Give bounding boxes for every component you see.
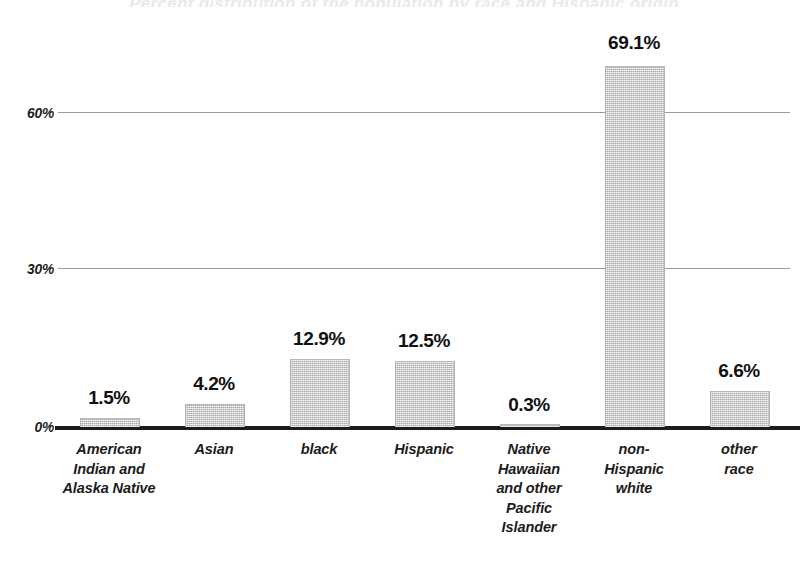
bar-category-line: Hispanic: [577, 460, 691, 480]
bar-category-line: non-: [577, 440, 691, 460]
bar-category-line: Hispanic: [367, 440, 481, 460]
bar-rect: [605, 66, 665, 427]
plot-area: 60% 30% 0% 1.5% American Indian and Alas…: [0, 0, 808, 574]
bar-rect: [395, 361, 455, 427]
bar-category-line: race: [682, 460, 796, 480]
bar-value-label: 6.6%: [686, 360, 792, 382]
bar-category-label: Native Hawaiian and other Pacific Island…: [472, 440, 586, 538]
bar-rect: [290, 359, 350, 427]
bar-category-line: other: [682, 440, 796, 460]
bar-category-label: black: [262, 440, 376, 460]
bar-value-label: 4.2%: [161, 373, 267, 395]
y-tick-label-60: 60%: [0, 104, 54, 121]
bar-group: 69.1% non- Hispanic white: [581, 0, 687, 574]
y-tick-label-30: 30%: [0, 260, 54, 277]
bar-group: 12.9% black: [266, 0, 372, 574]
bar-category-line: Asian: [157, 440, 271, 460]
bar-category-line: and other: [472, 479, 586, 499]
bar-rect: [185, 404, 245, 427]
bar-category-line: Hawaiian: [472, 460, 586, 480]
bar-category-line: white: [577, 479, 691, 499]
bar-category-label: Hispanic: [367, 440, 481, 460]
bar-category-label: other race: [682, 440, 796, 479]
bar-value-label: 1.5%: [56, 387, 162, 409]
bar-category-label: American Indian and Alaska Native: [52, 440, 166, 499]
bar-category-line: American: [52, 440, 166, 460]
bar-category-line: black: [262, 440, 376, 460]
bar-group: 6.6% other race: [686, 0, 792, 574]
bar-value-label: 69.1%: [581, 32, 687, 54]
bar-value-label: 12.9%: [266, 328, 372, 350]
y-tick-label-0: 0%: [0, 418, 54, 435]
bar-category-line: Native: [472, 440, 586, 460]
bar-rect: [80, 418, 140, 427]
bar-group: 4.2% Asian: [161, 0, 267, 574]
bar-category-line: Alaska Native: [52, 479, 166, 499]
bar-chart: Percent distribution of the population b…: [0, 0, 808, 574]
bar-group: 12.5% Hispanic: [371, 0, 477, 574]
bar-group: 0.3% Native Hawaiian and other Pacific I…: [476, 0, 582, 574]
bar-category-label: non- Hispanic white: [577, 440, 691, 499]
bar-category-label: Asian: [157, 440, 271, 460]
bar-rect: [500, 424, 560, 427]
bar-value-label: 12.5%: [371, 330, 477, 352]
bar-category-line: Pacific: [472, 499, 586, 519]
bar-rect: [710, 391, 770, 427]
bar-category-line: Islander: [472, 518, 586, 538]
bar-value-label: 0.3%: [476, 394, 582, 416]
bar-group: 1.5% American Indian and Alaska Native: [56, 0, 162, 574]
bar-category-line: Indian and: [52, 460, 166, 480]
